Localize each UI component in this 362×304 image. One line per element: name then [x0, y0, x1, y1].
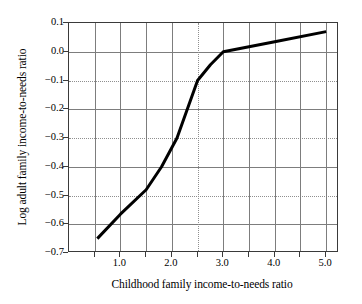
y-axis-tick-label: −0.2	[30, 103, 64, 113]
x-axis-title: Childhood family income-to-needs ratio	[52, 278, 352, 290]
y-axis-tick-label: −0.1	[30, 75, 64, 85]
x-axis-tick-label: 4.0	[254, 258, 294, 268]
x-axis-tick-mark	[145, 252, 146, 257]
y-axis-tick-label: 0.1	[30, 17, 64, 27]
y-axis-tick-mark	[63, 166, 68, 167]
x-axis-tick-mark	[197, 252, 198, 257]
y-axis-tick-label: −0.5	[30, 190, 64, 200]
y-axis-tick-mark	[63, 252, 68, 253]
y-axis-tick-mark	[63, 223, 68, 224]
x-axis-tick-mark	[325, 252, 326, 257]
y-axis-tick-label: −0.7	[30, 247, 64, 257]
y-axis-title: Log adult family income-to-needs ratio	[13, 12, 31, 262]
x-axis-tick-mark	[171, 252, 172, 257]
y-axis-tick-mark	[63, 51, 68, 52]
y-axis-tick-label: −0.4	[30, 161, 64, 171]
x-axis-tick-mark	[94, 252, 95, 257]
x-axis-tick-label: 1.0	[99, 258, 139, 268]
x-axis-tick-mark	[299, 252, 300, 257]
y-axis-tick-mark	[63, 195, 68, 196]
y-axis-tick-mark	[63, 22, 68, 23]
x-axis-tick-label: 5.0	[305, 258, 345, 268]
y-axis-tick-label: −0.3	[30, 132, 64, 142]
x-axis-tick-label: 3.0	[202, 258, 242, 268]
x-axis-tick-mark	[248, 252, 249, 257]
chart-figure: Log adult family income-to-needs ratio 0…	[0, 0, 362, 304]
x-axis-tick-label: 2.0	[151, 258, 191, 268]
y-axis-tick-mark	[63, 108, 68, 109]
data-layer	[69, 23, 337, 251]
y-axis-tick-label: 0.0	[30, 46, 64, 56]
y-axis-tick-mark	[63, 137, 68, 138]
line-series-spline-fit	[69, 23, 339, 253]
x-axis-tick-mark	[119, 252, 120, 257]
x-axis-tick-labels: 1.02.03.04.05.0	[0, 258, 362, 272]
x-axis-tick-mark	[222, 252, 223, 257]
y-axis-tick-mark	[63, 80, 68, 81]
plot-area	[68, 22, 338, 252]
y-axis-tick-label: −0.6	[30, 218, 64, 228]
x-axis-tick-mark	[274, 252, 275, 257]
